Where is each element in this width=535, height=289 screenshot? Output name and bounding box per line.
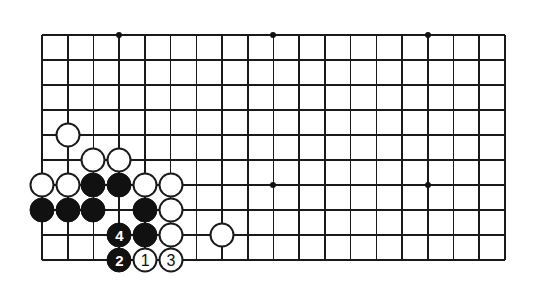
stone-black[interactable] — [81, 173, 106, 198]
stone-white[interactable] — [81, 148, 106, 173]
board-gridline-vertical — [504, 35, 507, 260]
go-board[interactable]: 4213 — [0, 0, 535, 289]
stone-white[interactable] — [132, 173, 157, 198]
stone-black[interactable] — [132, 198, 157, 223]
numbered-stone-white-3[interactable]: 3 — [158, 248, 183, 273]
board-gridline-vertical — [401, 35, 403, 260]
stone-black[interactable] — [55, 198, 80, 223]
stone-black[interactable] — [81, 198, 106, 223]
star-point — [270, 182, 276, 188]
board-gridline-vertical — [350, 35, 352, 260]
numbered-stone-white-1[interactable]: 1 — [132, 248, 157, 273]
stone-black[interactable] — [132, 223, 157, 248]
star-point — [270, 32, 276, 38]
stone-white[interactable] — [158, 223, 183, 248]
stone-move-number: 3 — [166, 252, 174, 268]
stone-move-number: 2 — [115, 253, 123, 268]
board-gridline-vertical — [247, 35, 249, 260]
stone-white[interactable] — [210, 223, 235, 248]
stone-black[interactable] — [30, 198, 55, 223]
numbered-stone-black-2[interactable]: 2 — [107, 248, 132, 273]
stone-white[interactable] — [55, 173, 80, 198]
board-gridline-vertical — [273, 35, 275, 260]
stone-white[interactable] — [158, 173, 183, 198]
stone-white[interactable] — [107, 148, 132, 173]
star-point — [116, 32, 122, 38]
board-gridline-vertical — [67, 35, 69, 260]
board-gridline-vertical — [41, 35, 44, 260]
stone-white[interactable] — [158, 198, 183, 223]
stone-move-number: 4 — [115, 228, 123, 243]
stone-white[interactable] — [55, 123, 80, 148]
stone-black[interactable] — [107, 173, 132, 198]
board-gridline-vertical — [298, 35, 300, 260]
board-gridline-vertical — [324, 35, 326, 260]
board-gridline-vertical — [376, 35, 378, 260]
star-point — [425, 182, 431, 188]
board-gridline-vertical — [453, 35, 455, 260]
numbered-stone-black-4[interactable]: 4 — [107, 223, 132, 248]
board-gridline-vertical — [196, 35, 198, 260]
star-point — [425, 32, 431, 38]
stone-move-number: 1 — [141, 252, 149, 268]
stone-white[interactable] — [30, 173, 55, 198]
go-diagram-figure: 4213 — [0, 0, 535, 289]
board-gridline-vertical — [427, 35, 429, 260]
board-gridline-vertical — [478, 35, 480, 260]
